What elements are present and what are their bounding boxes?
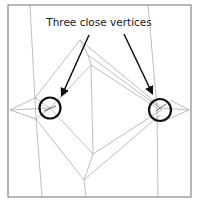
voronoi-diagram bbox=[0, 0, 198, 203]
edge bbox=[10, 98, 35, 110]
diagram-frame bbox=[8, 5, 191, 197]
edge bbox=[91, 65, 157, 108]
edge bbox=[36, 119, 42, 197]
edge bbox=[84, 115, 160, 180]
edge bbox=[170, 100, 189, 110]
edge bbox=[10, 108, 50, 110]
edge bbox=[88, 55, 160, 108]
left-arrow bbox=[62, 35, 89, 95]
diagram-edges bbox=[10, 5, 189, 197]
edge bbox=[91, 65, 93, 154]
right-arrow bbox=[124, 34, 152, 93]
edge bbox=[93, 114, 155, 154]
annotation-label: Three close vertices bbox=[0, 16, 198, 28]
edge bbox=[160, 108, 189, 110]
edge bbox=[10, 110, 36, 119]
edge bbox=[156, 104, 166, 111]
edge bbox=[36, 119, 84, 180]
edge bbox=[50, 65, 91, 108]
edge bbox=[84, 180, 86, 197]
right-vertex-circle bbox=[149, 99, 171, 121]
